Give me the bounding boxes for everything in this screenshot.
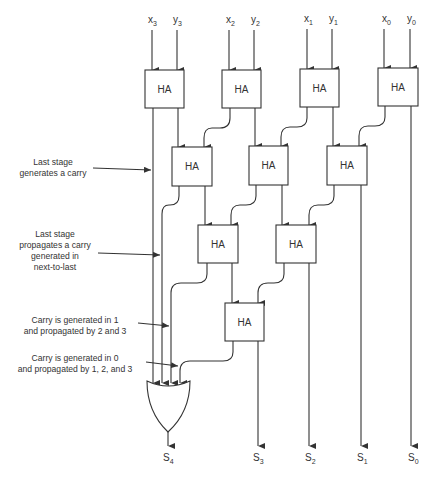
annotation-text: generated in (31, 251, 79, 261)
annotation-text: and propagated by 1, 2, and 3 (18, 364, 133, 374)
output-s1: S1 (357, 452, 368, 465)
input-y2: y2 (251, 14, 260, 27)
ha-label: HA (238, 317, 252, 328)
ha-label: HA (158, 84, 172, 95)
output-s2: S2 (305, 452, 316, 465)
annotation-text: propagates a carry (19, 240, 91, 250)
row4-half-adders: HA (225, 303, 264, 341)
ha-label: HA (185, 161, 199, 172)
input-y0: y0 (407, 13, 416, 26)
ha-label: HA (313, 83, 327, 94)
annotation-text: Last stage (33, 157, 73, 167)
output-s0: S0 (408, 452, 419, 465)
row2-half-adders: HA HA HA (172, 146, 367, 186)
output-s4: S4 (163, 452, 174, 465)
ha-label: HA (340, 160, 354, 171)
annotation-text: generates a carry (20, 168, 88, 178)
or-gate-shape (147, 381, 190, 432)
ha-label: HA (391, 82, 405, 93)
row4-wires (180, 341, 258, 446)
annotation-text: Carry is generated in 0 (32, 353, 119, 363)
input-x3: x3 (148, 14, 157, 27)
ha-label: HA (211, 239, 225, 250)
annotation-text: Carry is generated in 1 (32, 315, 119, 325)
half-adder-incrementer-diagram: x3 y3 x2 y2 x1 y1 x0 y0 HA HA HA HA (0, 0, 437, 479)
annotation-text: next-to-last (34, 262, 77, 272)
annotation-carry-generated-in-1: Carry is generated in 1 and propagated b… (24, 315, 169, 336)
input-y1: y1 (329, 13, 338, 26)
annotation-last-stage-propagates: Last stage propagates a carry generated … (19, 229, 160, 272)
input-x2: x2 (226, 14, 235, 27)
input-x1: x1 (304, 13, 313, 26)
ha-label: HA (289, 239, 303, 250)
input-wires (152, 29, 410, 70)
row3-to-row4-wires (171, 263, 309, 446)
annotation-carry-generated-in-0: Carry is generated in 0 and propagated b… (18, 353, 178, 374)
ha-label: HA (235, 84, 249, 95)
row1-half-adders: HA HA HA HA (145, 68, 418, 108)
output-s3: S3 (253, 452, 264, 465)
annotation-text: and propagated by 2 and 3 (24, 326, 127, 336)
input-x0: x0 (382, 13, 391, 26)
annotation-last-stage-generates: Last stage generates a carry (20, 157, 151, 178)
ha-label: HA (262, 160, 276, 171)
output-labels: S4 S3 S2 S1 S0 (163, 452, 419, 465)
row3-half-adders: HA HA (198, 225, 316, 263)
input-y3: y3 (173, 14, 182, 27)
input-labels: x3 y3 x2 y2 x1 y1 x0 y0 (148, 13, 416, 27)
or-gate (147, 381, 190, 446)
annotation-text: Last stage (35, 229, 75, 239)
